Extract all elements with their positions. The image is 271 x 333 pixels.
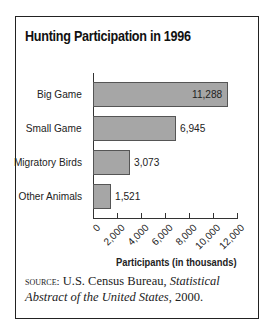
category-label: Migratory Birds: [14, 156, 82, 168]
bar: [93, 184, 111, 209]
x-tick: [165, 213, 166, 218]
x-tick: [141, 213, 142, 218]
value-label: 1,521: [115, 190, 140, 202]
x-axis-label: Participants (in thousands): [116, 256, 237, 268]
source-year: , 2000.: [169, 290, 203, 304]
category-label: Small Game: [26, 122, 82, 134]
value-label: 11,288: [192, 88, 222, 100]
category-label: Other Animals: [18, 190, 82, 202]
value-label: 6,945: [180, 122, 205, 134]
x-tick: [117, 213, 118, 218]
bar: [93, 150, 130, 175]
source-note: SOURCE: U.S. Census Bureau, Statistical …: [25, 273, 253, 305]
bar: [93, 116, 176, 141]
chart-title: Hunting Participation in 1996: [25, 28, 191, 44]
x-tick: [93, 213, 94, 218]
category-label: Big Game: [37, 88, 82, 100]
source-text: U.S. Census Bureau,: [60, 274, 170, 288]
x-tick: [237, 213, 238, 218]
x-tick: [213, 213, 214, 218]
x-axis-line: [93, 218, 238, 219]
source-label: SOURCE:: [25, 275, 60, 287]
value-label: 3,073: [134, 156, 159, 168]
x-tick: [189, 213, 190, 218]
